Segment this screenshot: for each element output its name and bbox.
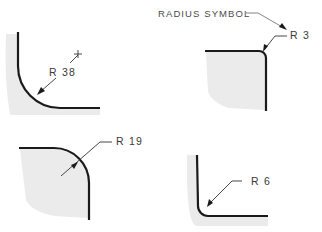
radius-symbol-callout: RADIUS SYMBOL — [158, 8, 287, 30]
round-r3: R 3 — [205, 29, 310, 111]
center-leader-r38 — [70, 55, 78, 63]
shaded-material-r3 — [205, 52, 265, 110]
fillet-r6: R 6 — [187, 155, 271, 226]
label-r3: R 3 — [290, 29, 310, 41]
callout-title: RADIUS SYMBOL — [158, 8, 250, 19]
label-r38: R 38 — [49, 66, 76, 78]
callout-arrowhead-icon — [279, 23, 287, 30]
label-r19: R 19 — [116, 135, 143, 147]
label-r6: R 6 — [251, 175, 271, 187]
arrowhead-r6-icon — [207, 199, 213, 207]
callout-leader-line — [246, 13, 284, 28]
shaded-material-r19 — [20, 149, 88, 218]
radius-dimension-diagram: RADIUS SYMBOL R 38 R 3 R 19 — [0, 0, 322, 232]
leader-r6 — [210, 181, 242, 203]
plus-icon — [74, 50, 82, 58]
round-r19: R 19 — [19, 135, 143, 220]
fillet-r38: R 38 — [6, 32, 101, 115]
leader-r3 — [264, 36, 287, 50]
